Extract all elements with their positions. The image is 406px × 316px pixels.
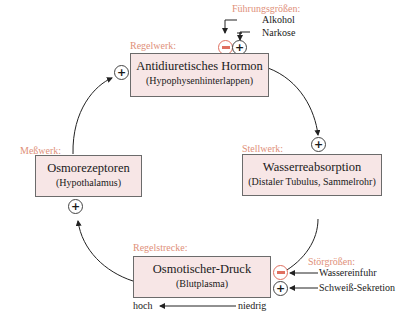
druck-box: Osmotischer-Druck (Blutplasma) — [133, 256, 271, 298]
minus-sign-druck — [273, 265, 288, 280]
plus-sign-hormon: + — [114, 65, 129, 80]
hormon-subtitle: (Hypophysenhinterlappen) — [131, 74, 268, 87]
plus-sign-osmo: + — [68, 199, 83, 214]
plus-icon: + — [71, 201, 80, 212]
regelwerk-label: Regelwerk: — [130, 40, 176, 51]
plus-icon: + — [314, 139, 323, 150]
osmo-subtitle: (Hypothalamus) — [36, 176, 141, 189]
alkohol-label: Alkohol — [262, 14, 295, 25]
fuehrungsgroessen-label: Führungsgrößen: — [232, 3, 300, 14]
wasser-subtitle: (Distaler Tubulus, Sammelrohr) — [243, 175, 381, 188]
schweiss-label: Schweiß-Sekretion — [319, 282, 395, 293]
druck-title: Osmotischer-Druck — [134, 262, 270, 277]
plus-icon: + — [276, 283, 285, 294]
narkose-label: Narkose — [262, 27, 295, 38]
wassereinfuhr-label: Wassereinfuhr — [319, 267, 377, 278]
plus-sign-wasser: + — [311, 137, 326, 152]
minus-icon — [277, 271, 285, 274]
niedrig-label: niedrig — [238, 300, 266, 311]
plus-icon: + — [117, 67, 126, 78]
druck-subtitle: (Blutplasma) — [134, 277, 270, 290]
plus-sign-druck: + — [273, 281, 288, 296]
wasser-box: Wasserreabsorption (Distaler Tubulus, Sa… — [242, 154, 382, 196]
osmo-title: Osmorezeptoren — [36, 161, 141, 176]
regelstrecke-label: Regelstrecke: — [133, 242, 187, 253]
stellwerk-label: Stellwerk: — [242, 143, 283, 154]
stoergroessen-label: Störgrößen: — [308, 256, 355, 267]
hoch-label: hoch — [133, 300, 152, 311]
hormon-box: Antidiuretisches Hormon (Hypophysenhinte… — [130, 53, 269, 97]
osmo-box: Osmorezeptoren (Hypothalamus) — [35, 155, 142, 197]
minus-icon — [222, 46, 230, 49]
hormon-title: Antidiuretisches Hormon — [131, 59, 268, 74]
wasser-title: Wasserreabsorption — [243, 160, 381, 175]
plus-icon: + — [235, 42, 244, 53]
